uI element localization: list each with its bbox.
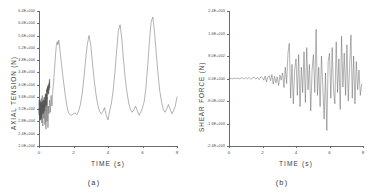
chart-panel-shear-force: -2.4E+003-1.6E+003-8.0E+0020.0E+0008.0E+… [188,0,376,193]
figure-container: 2.0E+0042.4E+0042.8E+0043.2E+0043.6E+004… [0,0,376,193]
chart-panel-axial-tension: 2.0E+0042.4E+0042.8E+0043.2E+0043.6E+004… [0,0,188,193]
data-curve [188,0,376,193]
data-curve [0,0,188,193]
